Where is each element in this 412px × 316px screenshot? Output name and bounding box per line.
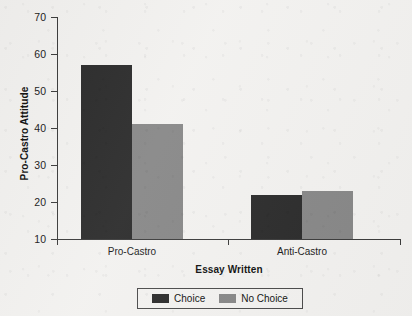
legend-label: No Choice <box>241 294 288 304</box>
bar-choice-pro-castro <box>81 65 132 239</box>
legend-entry: No Choice <box>219 294 288 304</box>
y-axis-title: Pro-Castro Attitude <box>19 64 30 204</box>
y-axis-tick-label: 10 <box>16 234 46 245</box>
bar-chart: 10203040506070 Pro-Castro Attitude Pro-C… <box>0 0 412 316</box>
bar-no-choice-anti-castro <box>302 191 353 239</box>
bar-choice-anti-castro <box>251 195 302 239</box>
x-axis-tick <box>57 239 58 245</box>
x-axis-tick-label: Pro-Castro <box>77 247 187 257</box>
legend-swatch-icon <box>219 294 236 303</box>
y-axis-tick-label: 60 <box>16 49 46 60</box>
legend-entry: Choice <box>152 294 205 304</box>
x-axis-tick <box>400 239 401 245</box>
y-axis-tick-label: 70 <box>16 12 46 23</box>
bar-no-choice-pro-castro <box>132 124 183 239</box>
chart-legend: ChoiceNo Choice <box>137 288 303 309</box>
legend-swatch-icon <box>152 294 169 303</box>
x-axis-tick <box>228 239 229 245</box>
x-axis-tick-label: Anti-Castro <box>247 247 357 257</box>
plot-area <box>57 17 401 239</box>
x-axis-title: Essay Written <box>57 264 401 275</box>
legend-label: Choice <box>174 294 205 304</box>
